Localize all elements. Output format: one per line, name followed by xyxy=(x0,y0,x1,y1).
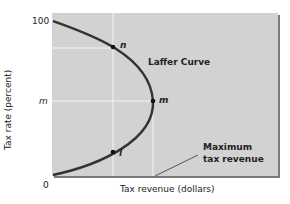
x-axis-label: Tax revenue (dollars) xyxy=(120,184,215,194)
curve-label: Laffer Curve xyxy=(148,57,210,67)
x-tick-0: 0 xyxy=(43,180,49,190)
annotation-line-2: tax revenue xyxy=(203,154,264,164)
annotation-line-1: Maximum xyxy=(203,142,252,152)
point-m xyxy=(151,99,156,104)
point-m-label: m xyxy=(159,95,168,105)
point-n-label: n xyxy=(120,40,126,50)
point-n xyxy=(111,45,116,50)
annotation-pointer xyxy=(155,155,198,176)
laffer-curve xyxy=(53,21,153,175)
y-tick-100: 100 xyxy=(32,16,49,26)
y-axis-label: Tax rate (percent) xyxy=(3,70,13,150)
point-l-label: l xyxy=(119,148,122,158)
y-tick-m: m xyxy=(39,96,48,106)
point-l xyxy=(111,150,116,155)
